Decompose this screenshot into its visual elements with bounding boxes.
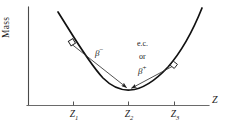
tick-label-z1-sub: 1 [75, 114, 78, 121]
tick-label-z2: Z2 [117, 110, 141, 121]
tick-label-z3-sub: 3 [176, 114, 179, 121]
figure-canvas [0, 0, 227, 129]
beta-minus-label: β− [95, 47, 103, 58]
mass-parabola-figure: Mass Z Z1 Z2 Z3 β− e.c. or β+ [0, 0, 227, 129]
y-axis-label: Mass [2, 0, 12, 38]
electron-capture-label: e.c. [137, 40, 148, 48]
beta-plus-label-sup: + [142, 64, 146, 72]
tick-label-z2-sub: 2 [130, 114, 133, 121]
beta-plus-label: β+ [138, 65, 146, 76]
beta-minus-label-sup: − [99, 46, 103, 54]
tick-label-z3: Z3 [163, 110, 187, 121]
tick-label-z1: Z1 [62, 110, 86, 121]
x-axis-label: Z [212, 95, 218, 105]
mass-parabola-curve [58, 8, 202, 90]
or-label: or [139, 53, 146, 61]
